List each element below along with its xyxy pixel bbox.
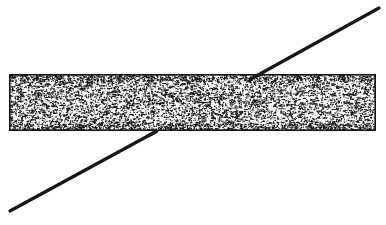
figure-canvas: [0, 0, 386, 225]
figure-root: Stippled horizontal bar crossed by a dia…: [0, 0, 386, 225]
